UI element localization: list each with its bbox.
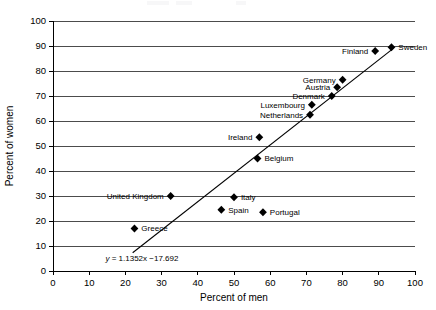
regression-equation-label: y = 1.1352x −17.692 — [104, 254, 178, 263]
chart-canvas: 0102030405060708090100 01020304050607080… — [0, 0, 436, 310]
data-point: Italy — [230, 193, 255, 202]
x-tick-label-90: 90 — [374, 277, 385, 288]
point-label-luxembourg: Luxembourg — [260, 101, 304, 110]
y-tick-label-20: 20 — [35, 215, 46, 226]
point-label-spain: Spain — [228, 206, 248, 215]
x-tick-label-100: 100 — [407, 277, 423, 288]
point-label-sweden: Sweden — [398, 43, 427, 52]
x-tick-label-20: 20 — [120, 277, 131, 288]
x-tick-label-10: 10 — [84, 277, 95, 288]
equation-body: = 1.1352x −17.692 — [109, 254, 178, 263]
y-tick-label-50: 50 — [35, 140, 46, 151]
x-tick-label-80: 80 — [337, 277, 348, 288]
y-tick-label-90: 90 — [35, 40, 46, 51]
x-tick-label-70: 70 — [301, 277, 312, 288]
point-label-ireland: Ireland — [228, 133, 252, 142]
point-label-italy: Italy — [241, 193, 256, 202]
y-tick-label-60: 60 — [35, 115, 46, 126]
scatter-chart: 0102030405060708090100 01020304050607080… — [0, 0, 436, 310]
x-axis-title: Percent of men — [200, 292, 268, 303]
point-label-united-kingdom: United Kingdom — [107, 192, 164, 201]
x-tick-label-60: 60 — [265, 277, 276, 288]
y-tick-label-100: 100 — [30, 15, 46, 26]
y-tick-label-30: 30 — [35, 190, 46, 201]
y-axis-title: Percent of women — [4, 106, 15, 187]
y-tick-label-80: 80 — [35, 65, 46, 76]
x-tick-label-50: 50 — [229, 277, 240, 288]
point-label-belgium: Belgium — [264, 154, 293, 163]
x-tick-label-30: 30 — [156, 277, 167, 288]
point-label-finland: Finland — [342, 47, 368, 56]
y-tick-label-40: 40 — [35, 165, 46, 176]
y-tick-label-10: 10 — [35, 240, 46, 251]
x-tick-label-40: 40 — [193, 277, 204, 288]
point-label-netherlands: Netherlands — [260, 111, 303, 120]
y-tick-label-70: 70 — [35, 90, 46, 101]
x-tick-label-0: 0 — [50, 277, 55, 288]
point-label-greece: Greece — [141, 224, 168, 233]
point-label-portugal: Portugal — [270, 208, 300, 217]
chart-background — [0, 0, 436, 310]
point-label-germany: Germany — [303, 76, 336, 85]
y-tick-label-0: 0 — [41, 265, 46, 276]
point-label-denmark: Denmark — [292, 92, 325, 101]
